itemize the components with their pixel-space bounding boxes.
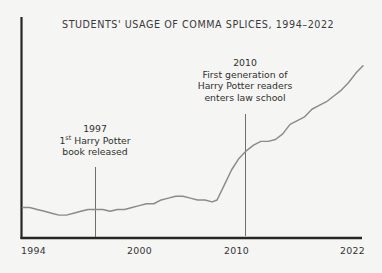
annotation-1997-line1: 1st Harry Potter — [25, 135, 165, 147]
annotation-1997: 1997 1st Harry Potter book released — [25, 123, 165, 158]
annotation-1997-year: 1997 — [25, 123, 165, 135]
x-tick-label-1994: 1994 — [21, 245, 46, 256]
annotation-2010-line3: enters law school — [175, 92, 315, 104]
x-tick-label-2000: 2000 — [127, 245, 152, 256]
comma-splices-line-chart: STUDENTS' USAGE OF COMMA SPLICES, 1994–2… — [0, 0, 382, 273]
annotation-1997-line2: book released — [25, 146, 165, 158]
x-tick-label-2010: 2010 — [224, 245, 249, 256]
chart-title: STUDENTS' USAGE OF COMMA SPLICES, 1994–2… — [62, 19, 334, 30]
x-tick-label-2022: 2022 — [340, 245, 365, 256]
annotation-2010-year: 2010 — [175, 57, 315, 69]
annotation-1997-line1-post: Harry Potter — [71, 135, 130, 146]
annotation-2010: 2010 First generation of Harry Potter re… — [175, 57, 315, 103]
annotation-2010-line1: First generation of — [175, 69, 315, 81]
annotation-2010-line2: Harry Potter readers — [175, 80, 315, 92]
